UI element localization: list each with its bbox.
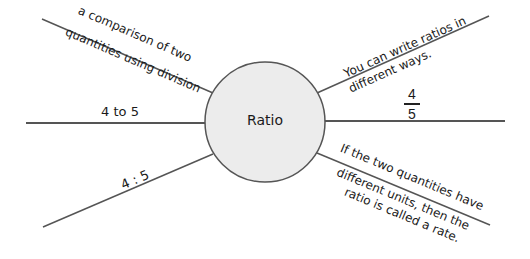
- ratio-concept-web: Ratio a comparison of two quantities usi…: [0, 0, 530, 259]
- fraction-numerator: 4: [400, 87, 424, 103]
- fraction-denominator: 5: [400, 105, 424, 121]
- left-text: 4 to 5: [85, 104, 155, 120]
- center-label: Ratio: [225, 112, 305, 128]
- right-fraction: 4 5: [400, 87, 424, 121]
